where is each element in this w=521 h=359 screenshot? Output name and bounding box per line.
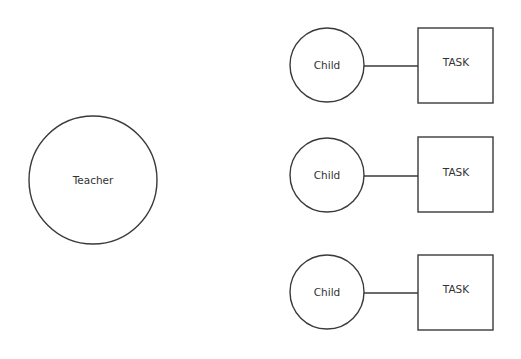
child-task-pair-1: Child TASK [290,28,493,103]
child-label: Child [314,286,341,298]
task-label: TASK [442,56,470,68]
child-label: Child [314,169,341,181]
child-label: Child [314,59,341,71]
child-task-pair-2: Child TASK [290,137,493,212]
task-label: TASK [442,283,470,295]
child-task-pair-3: Child TASK [290,255,493,330]
task-label: TASK [442,166,470,178]
teacher-child-task-diagram: Teacher Child TASK Child TASK Child TASK [0,0,521,359]
teacher-label: Teacher [72,174,114,186]
teacher-node: Teacher [29,116,157,244]
